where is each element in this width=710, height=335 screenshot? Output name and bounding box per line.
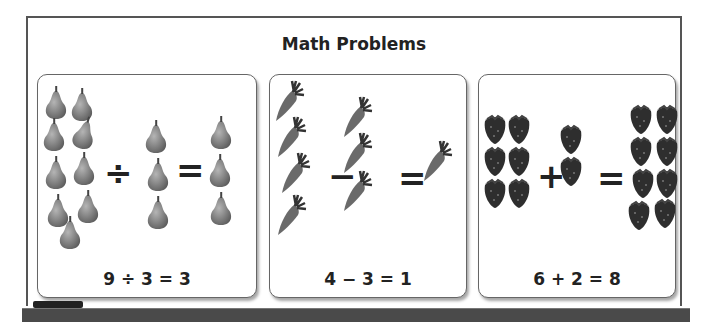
board-title: Math Problems [28,34,680,54]
equation-label: 9 ÷ 3 = 3 [38,269,256,289]
equals-symbol: = [398,161,427,195]
divide-symbol: ÷ [104,155,133,189]
minus-symbol: − [328,159,357,193]
subtraction-panel: − = 4 − 3 = 1 [269,74,467,298]
whiteboard-tray [22,308,690,322]
division-panel: ÷ = 9 ÷ 3 = 3 [37,74,257,298]
plus-symbol: + [537,159,566,193]
carrot-group-icons [270,75,468,275]
equals-symbol: = [176,153,205,187]
eraser [33,301,83,308]
equation-label: 4 − 3 = 1 [270,269,466,289]
whiteboard: Math Problems ÷ [26,16,682,306]
equals-symbol: = [597,161,626,195]
addition-panel: + = 6 + 2 = 8 [478,74,676,298]
strawberry-group-icons [479,75,677,275]
pear-group-icons [38,75,258,275]
equation-label: 6 + 2 = 8 [479,269,675,289]
